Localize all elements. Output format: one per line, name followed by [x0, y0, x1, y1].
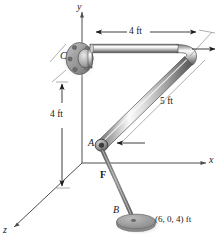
- dimension-label-left: 4 ft: [50, 110, 63, 120]
- pipe-assembly: [60, 41, 197, 151]
- z-axis-label: z: [3, 225, 7, 235]
- point-label-b: B: [113, 205, 119, 215]
- dim-top-extension-corner: [190, 32, 212, 56]
- flange-collar-rim: [90, 44, 94, 53]
- flange-bolt-hole: [73, 67, 77, 71]
- pipe-diagonal-segment: [98, 57, 192, 150]
- pipe-horizontal-segment: [90, 44, 178, 53]
- figure-canvas: [0, 0, 223, 240]
- pipe-end-bore: [99, 143, 104, 148]
- dimension-label-diagonal: 5 ft: [160, 97, 173, 107]
- dimension-left-4ft: [56, 82, 70, 188]
- z-axis: [14, 163, 82, 227]
- statics-figure: y x z C A B 4 ft 4 ft 5 ft F (6, 0, 4) f…: [0, 0, 223, 240]
- x-axis-tip: [201, 161, 207, 165]
- coordinate-label-b: (6, 0, 4) ft: [155, 215, 191, 224]
- flange-bolt-hole: [68, 57, 72, 61]
- z-axis-tip: [14, 223, 20, 227]
- dimension-label-top: 4 ft: [129, 27, 142, 37]
- y-axis-tip: [80, 12, 84, 18]
- leader-flange-front: [52, 70, 66, 82]
- x-axis-label: x: [209, 155, 213, 165]
- disk-eyelet: [131, 219, 135, 221]
- flange-support-c: [66, 43, 94, 75]
- point-label-a: A: [88, 138, 94, 148]
- y-axis-label: y: [77, 2, 81, 12]
- pipe-horizontal-body: [90, 44, 178, 53]
- force-label-f: F: [100, 170, 106, 180]
- pipe-diagonal-body: [98, 57, 192, 150]
- point-label-c: C: [60, 51, 67, 61]
- dim-top-extension: [199, 30, 215, 33]
- pipe-diagonal-highlight: [101, 60, 187, 144]
- flange-bolt-hole: [72, 45, 76, 49]
